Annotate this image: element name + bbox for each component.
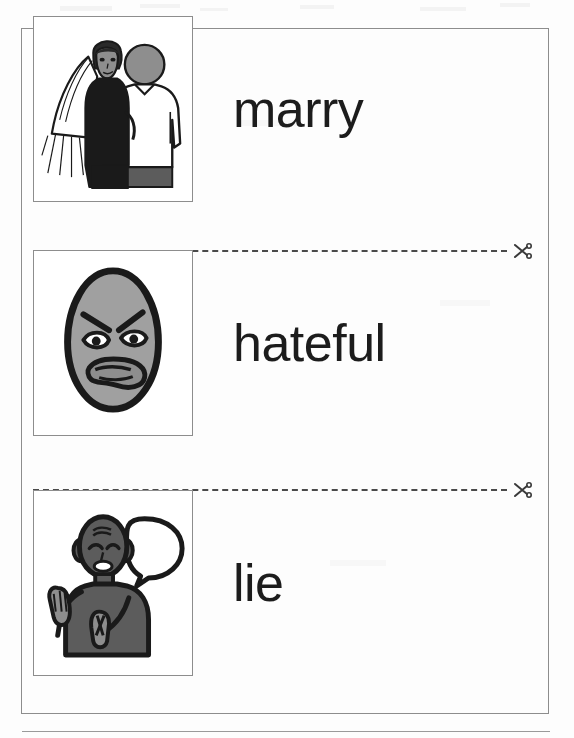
angry-face-pictogram [33,250,193,436]
flashcard-hateful[interactable]: hateful [33,250,513,436]
flashcard-word-hateful: hateful [193,317,513,369]
flashcard-marry[interactable]: marry [33,16,513,202]
footer-rule [22,731,550,732]
flashcard-word-lie: lie [193,557,513,609]
flashcard-lie[interactable]: lie [33,490,513,676]
wedding-couple-pictogram [33,16,193,202]
lying-person-pictogram [33,490,193,676]
scissors-icon [513,242,533,260]
flashcard-word-marry: marry [193,83,513,135]
scissors-icon [513,481,533,499]
